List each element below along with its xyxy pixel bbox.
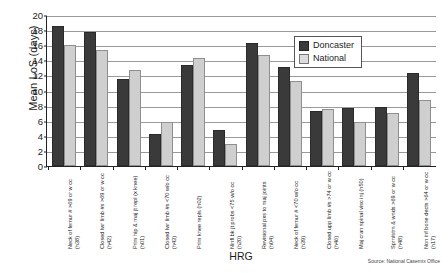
bar-group: [371, 16, 403, 166]
plot-area: 02468101214161820: [46, 16, 436, 167]
bar-national: [419, 100, 431, 166]
bar-national: [258, 55, 270, 166]
y-tick-label: 4: [38, 132, 43, 142]
x-label-slot: Sprn/strn & wnds >69 or w cc (h48): [370, 171, 402, 249]
bar-national: [96, 50, 108, 166]
x-tick-mark: [306, 166, 307, 170]
x-axis-labels: Neck of femur # >69 or w cc (h38)Closed …: [46, 171, 436, 249]
bar-chart: Mean LoS (days) 02468101214161820 Neck o…: [0, 0, 448, 273]
bar-doncaster: [213, 130, 225, 166]
x-tick-mark: [113, 166, 114, 170]
x-label-slot: Closed upp limb #s >74 or w cc (h46): [306, 171, 338, 249]
y-tick-label: 20: [32, 11, 43, 21]
x-tick-mark: [80, 166, 81, 170]
bar-doncaster: [149, 134, 161, 166]
bar-group: [177, 16, 209, 166]
bar-group: [80, 16, 112, 166]
y-tick-label: 16: [32, 41, 43, 51]
legend-swatch-national: [299, 54, 309, 64]
bar-doncaster: [84, 32, 96, 166]
x-label-slot: Neck of femur # <70 w/o cc (h39): [273, 171, 305, 249]
y-tick-label: 6: [38, 117, 43, 127]
x-label-slot: Prim hip & maj jt repl (x knee) (h01): [112, 171, 144, 249]
x-tick-mark: [145, 166, 146, 170]
legend-swatch-doncaster: [299, 41, 309, 51]
x-tick-mark: [403, 166, 404, 170]
x-tick-mark: [274, 166, 275, 170]
bar-national: [354, 122, 366, 166]
legend-item-doncaster: Doncaster: [299, 40, 354, 51]
bar-group: [113, 16, 145, 166]
bar-national: [290, 81, 302, 166]
y-tick-label: 12: [32, 72, 43, 82]
x-label-slot: Ninfl bk jt probs <75 w/o cc (h20): [209, 171, 241, 249]
x-label-slot: Revisional pxs to maj joints (h04): [241, 171, 273, 249]
x-label-slot: Closed lwr limb #s >69 or w cc (h42): [79, 171, 111, 249]
x-tick-label: Prim knee repls (h02): [196, 171, 203, 249]
bar-doncaster: [246, 43, 258, 166]
y-tick-mark: [44, 167, 48, 168]
bar-national: [129, 70, 141, 166]
bar-national: [64, 45, 76, 166]
bars-layer: [47, 16, 436, 166]
legend-item-national: National: [299, 53, 354, 64]
x-tick-mark: [242, 166, 243, 170]
x-label-slot: Prim knee repls (h02): [176, 171, 208, 249]
y-tick-label: 0: [38, 162, 43, 172]
y-tick-label: 14: [32, 57, 43, 67]
x-tick-mark: [371, 166, 372, 170]
bar-group: [145, 16, 177, 166]
y-tick-label: 10: [32, 87, 43, 97]
bar-group: [48, 16, 80, 166]
bar-national: [161, 122, 173, 166]
x-tick-mark: [177, 166, 178, 170]
bar-doncaster: [278, 67, 290, 166]
bar-doncaster: [375, 107, 387, 166]
legend-label-doncaster: Doncaster: [313, 40, 354, 51]
bar-doncaster: [52, 26, 64, 166]
x-tick-mark: [209, 166, 210, 170]
bar-group: [403, 16, 435, 166]
bar-group: [209, 16, 241, 166]
y-tick-label: 2: [38, 147, 43, 157]
bar-doncaster: [117, 79, 129, 166]
x-label-slot: Maj cran spinal visc inj (h50): [338, 171, 370, 249]
y-tick-label: 18: [32, 26, 43, 36]
x-label-slot: Non inf bone dects >64 or w cc (h17): [403, 171, 435, 249]
x-label-slot: Closed lwr limb #s <70 w/o cc (h43): [144, 171, 176, 249]
source-note: Source: National Casemix Office: [368, 258, 440, 264]
x-tick-mark: [338, 166, 339, 170]
legend: Doncaster National: [294, 36, 362, 68]
bar-doncaster: [342, 108, 354, 166]
bar-national: [387, 113, 399, 166]
bar-national: [322, 109, 334, 166]
bar-doncaster: [181, 65, 193, 166]
x-tick-label: Maj cran spinal visc inj (h50): [358, 171, 365, 249]
x-tick-mark: [48, 166, 49, 170]
bar-doncaster: [407, 73, 419, 166]
bar-national: [193, 58, 205, 166]
x-tick-label: Non inf bone dects >64 or w cc (h17): [423, 171, 436, 249]
bar-national: [225, 144, 237, 166]
legend-label-national: National: [313, 53, 346, 64]
x-label-slot: Neck of femur # >69 or w cc (h38): [47, 171, 79, 249]
bar-group: [242, 16, 274, 166]
plot-wrapper: 02468101214161820: [46, 16, 436, 167]
bar-doncaster: [310, 111, 322, 166]
y-tick-label: 8: [38, 102, 43, 112]
